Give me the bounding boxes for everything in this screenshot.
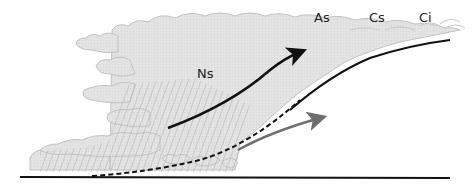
ground-line bbox=[20, 177, 450, 178]
precipitation-hatch bbox=[40, 78, 250, 172]
label-ns: Ns bbox=[197, 66, 214, 81]
warm-front-diagram: Ns As Cs Ci bbox=[0, 0, 475, 190]
label-ci: Ci bbox=[419, 10, 432, 25]
label-cs: Cs bbox=[369, 10, 385, 25]
label-as: As bbox=[314, 10, 330, 25]
